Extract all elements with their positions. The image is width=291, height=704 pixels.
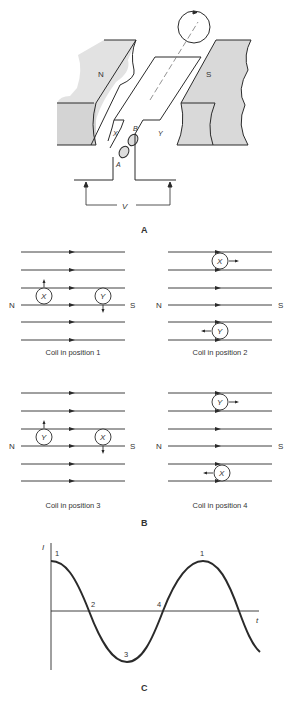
pos2-conductor-x: X [216,257,223,266]
panel-b-label: B [141,518,148,528]
pos2-north: N [156,301,162,310]
pos2-conductor-y: Y [217,327,223,336]
pos2-south: S [278,301,283,310]
ring-a-label: A [115,161,121,168]
point-4: 4 [157,600,161,609]
pos3-conductor-x: X [99,433,106,442]
pos1-north: N [9,301,15,310]
point-3: 3 [124,650,128,659]
south-label: S [206,70,211,79]
pos3-north: N [9,442,15,451]
point-1b: 1 [200,549,204,558]
rotation-indicator [178,11,210,43]
generator-figure: N S X Y B A V A [0,0,291,704]
side-y-label: Y [158,130,164,137]
pos1-caption: Coil in position 1 [45,348,100,357]
y-axis-label: I [42,543,45,552]
voltage-label: V [122,202,128,211]
pos4-south: S [278,442,283,451]
panel-b [21,250,272,483]
pos1-conductor-y: Y [100,292,106,301]
pos4-conductor-y: Y [217,398,223,407]
current-sine-curve [51,561,260,662]
panel-c-label: C [141,683,148,693]
pos2-caption: Coil in position 2 [192,348,247,357]
field-lines-pos3 [21,391,125,483]
side-x-label: X [112,130,118,137]
panel-a [57,11,251,205]
pos3-caption: Coil in position 3 [45,501,100,510]
point-2: 2 [91,600,95,609]
pos3-conductor-y: Y [41,433,47,442]
ring-b-label: B [133,125,138,132]
south-magnet [177,40,251,145]
pos1-conductor-x: X [40,292,47,301]
point-1a: 1 [55,549,59,558]
pos1-south: S [130,301,135,310]
field-lines-pos1 [21,250,125,342]
north-magnet [57,40,136,145]
x-axis-label: t [256,616,259,625]
north-label: N [98,70,104,79]
axes [51,543,259,670]
panel-a-label: A [141,225,148,235]
pos4-north: N [156,442,162,451]
pos4-caption: Coil in position 4 [192,501,247,510]
pos4-conductor-x: X [218,469,225,478]
panel-c [51,543,260,670]
pos3-south: S [130,442,135,451]
